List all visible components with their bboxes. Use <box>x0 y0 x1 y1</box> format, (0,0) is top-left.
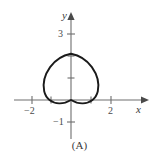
y-tick-label-3: 3 <box>58 29 63 39</box>
y-axis-arrow-icon <box>67 12 74 20</box>
x-tick-label-minus-2: −2 <box>24 106 35 116</box>
x-axis-label: x <box>136 104 141 115</box>
y-tick-label-minus-1: −1 <box>53 117 64 127</box>
y-axis-label: y <box>62 10 67 21</box>
x-axis-arrow-icon <box>141 96 149 103</box>
figure-panel: −2 2 3 −1 y x (A) <box>0 0 159 161</box>
panel-caption: (A) <box>0 140 159 151</box>
x-tick-label-2: 2 <box>108 106 113 116</box>
cardioid-plot <box>0 0 159 161</box>
